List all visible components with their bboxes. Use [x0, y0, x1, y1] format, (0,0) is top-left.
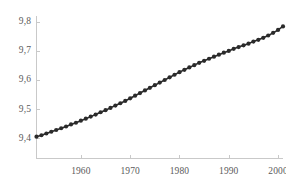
data-point-marker — [256, 38, 260, 42]
data-point-marker — [202, 59, 206, 63]
data-point-marker — [217, 53, 221, 57]
data-point-marker — [241, 43, 245, 47]
data-point-marker — [222, 51, 226, 55]
data-point-marker — [113, 103, 117, 107]
data-point-marker — [89, 115, 93, 119]
data-point-marker — [261, 36, 265, 40]
y-tick-label: 9,7 — [0, 45, 31, 55]
data-point-marker — [123, 99, 127, 103]
data-point-marker — [281, 24, 285, 28]
data-point-marker — [94, 112, 98, 116]
data-point-marker — [197, 61, 201, 65]
x-tick-label: 1990 — [209, 166, 249, 176]
x-tick-label: 1960 — [61, 166, 101, 176]
y-tick-label: 9,6 — [0, 74, 31, 84]
data-point-marker — [138, 91, 142, 95]
data-point-marker — [182, 68, 186, 72]
y-axis-ticks — [37, 23, 41, 139]
data-point-marker — [84, 117, 88, 121]
data-point-marker — [276, 28, 280, 32]
data-point-marker — [133, 94, 137, 98]
data-point-marker — [163, 78, 167, 82]
data-point-marker — [69, 122, 73, 126]
data-point-marker — [177, 70, 181, 74]
data-point-marker — [212, 55, 216, 59]
data-point-marker — [39, 133, 43, 137]
data-point-marker — [192, 63, 196, 67]
y-tick-label: 9,8 — [0, 16, 31, 26]
chart-figure: 19601970198019902000 9,49,59,69,79,8 — [0, 0, 286, 196]
data-point-marker — [271, 31, 275, 35]
data-point-marker — [227, 49, 231, 53]
x-tick-label: 2000 — [258, 166, 286, 176]
y-tick-label: 9,4 — [0, 133, 31, 143]
data-point-marker — [103, 108, 107, 112]
data-point-marker — [128, 96, 132, 100]
data-point-marker — [168, 75, 172, 79]
data-point-marker — [44, 131, 48, 135]
data-point-markers — [34, 24, 285, 138]
data-point-marker — [118, 101, 122, 105]
data-point-marker — [64, 124, 68, 128]
x-tick-label: 1970 — [110, 166, 150, 176]
data-point-marker — [158, 81, 162, 85]
data-point-marker — [232, 47, 236, 51]
data-point-marker — [34, 135, 38, 139]
axis-spines — [36, 16, 283, 159]
data-point-marker — [251, 39, 255, 43]
data-point-marker — [237, 45, 241, 49]
data-point-marker — [246, 42, 250, 46]
data-point-marker — [207, 57, 211, 61]
data-point-marker — [143, 88, 147, 92]
data-point-marker — [59, 126, 63, 130]
data-point-marker — [153, 83, 157, 87]
x-axis-ticks — [82, 155, 279, 159]
data-point-marker — [54, 128, 58, 132]
data-point-marker — [187, 65, 191, 69]
data-point-marker — [108, 106, 112, 110]
data-point-marker — [98, 110, 102, 114]
data-point-marker — [172, 73, 176, 77]
data-point-marker — [79, 119, 83, 123]
data-point-marker — [74, 121, 78, 125]
x-tick-label: 1980 — [159, 166, 199, 176]
y-tick-label: 9,5 — [0, 104, 31, 114]
data-point-marker — [49, 130, 53, 134]
data-point-marker — [148, 86, 152, 90]
data-point-marker — [266, 33, 270, 37]
